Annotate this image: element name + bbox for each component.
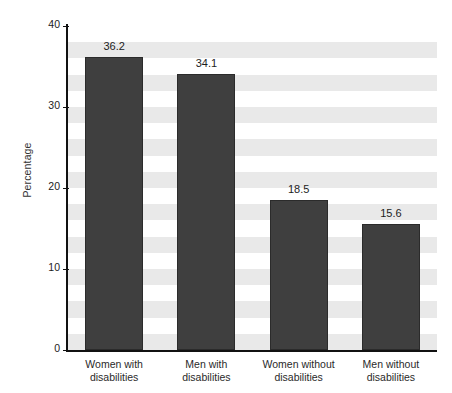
bar-value-label: 15.6 — [351, 207, 431, 219]
y-axis-tick-label: 20 — [48, 180, 60, 192]
y-axis-tick-label: 10 — [48, 261, 60, 273]
y-axis-tick-label: 40 — [48, 18, 60, 30]
bar-value-label: 36.2 — [74, 40, 154, 52]
bar — [177, 74, 235, 350]
y-axis-tick-label: 30 — [48, 99, 60, 111]
bar-chart-figure: Percentage 010203040 36.234.118.515.6 Wo… — [0, 0, 452, 393]
y-axis-tick-label: 0 — [54, 342, 60, 354]
bar — [85, 57, 143, 350]
bar-value-label: 34.1 — [166, 57, 246, 69]
y-axis-tick-layer: 010203040 — [0, 0, 70, 393]
x-axis-category-label: Women with disabilities — [68, 358, 160, 384]
x-axis-category-label: Men with disabilities — [160, 358, 252, 384]
bar — [362, 224, 420, 350]
plot-area — [68, 26, 437, 350]
bar — [270, 200, 328, 350]
y-axis-tick-mark — [63, 107, 69, 108]
x-axis-line — [66, 350, 437, 352]
x-axis-category-label: Men without disabilities — [345, 358, 437, 384]
y-axis-tick-mark — [63, 188, 69, 189]
y-axis-tick-mark — [63, 269, 69, 270]
y-axis-tick-mark — [63, 350, 69, 351]
y-axis-tick-mark — [63, 26, 69, 27]
x-axis-category-label: Women without disabilities — [253, 358, 345, 384]
bar-value-label: 18.5 — [259, 183, 339, 195]
